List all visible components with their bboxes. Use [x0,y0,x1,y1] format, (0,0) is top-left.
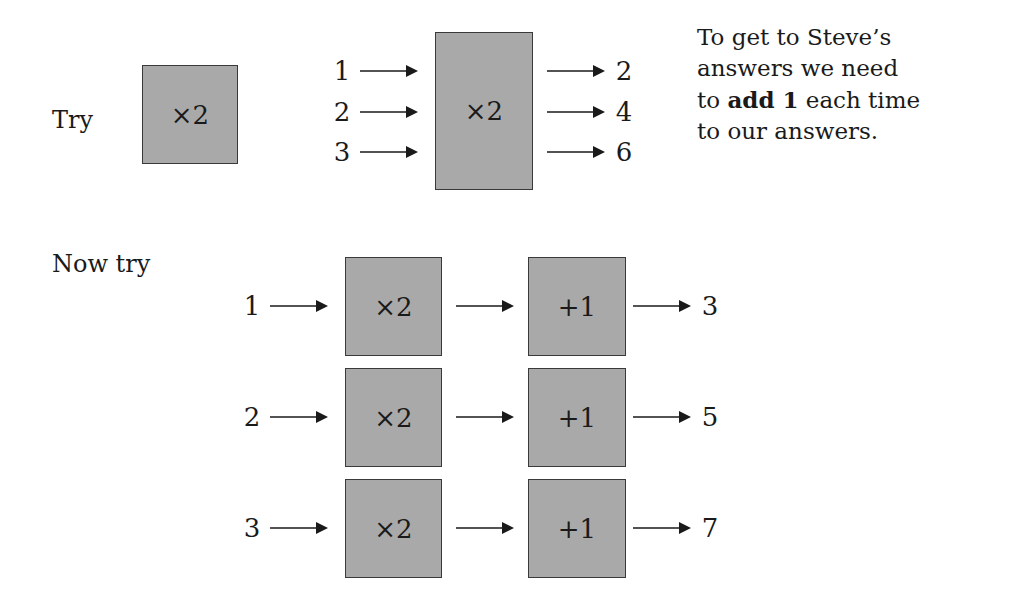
operation-label: ×2 [171,100,209,130]
row-3-times-2-box: ×2 [345,479,442,578]
arrow-right-icon [456,521,516,535]
machine-input-1: 1 [330,56,354,86]
row-3-plus-1-box: +1 [528,479,626,578]
row-1-input: 1 [240,291,264,321]
explanation-emphasis: add 1 [727,86,798,113]
machine-input-3: 3 [330,137,354,167]
explanation-line-3-post: each time [798,87,920,113]
row-2-times-2-box: ×2 [345,368,442,467]
operation-label: ×2 [374,292,412,322]
arrow-right-icon [270,521,330,535]
arrow-right-icon [456,299,516,313]
explanation-text: To get to Steve’s answers we need to add… [697,22,997,147]
machine-box-times-2: ×2 [435,32,533,190]
explanation-line-4: to our answers. [697,116,997,147]
explanation-line-1: To get to Steve’s [697,22,997,53]
arrow-right-icon [633,299,693,313]
row-2-input: 2 [240,402,264,432]
row-3-input: 3 [240,513,264,543]
arrow-right-icon [633,410,693,424]
operation-label: ×2 [374,514,412,544]
arrow-right-icon [270,299,330,313]
row-1-plus-1-box: +1 [528,257,626,356]
arrow-right-icon [360,145,420,159]
arrow-right-icon [547,105,607,119]
operation-label: +1 [558,403,596,433]
operation-label: +1 [558,514,596,544]
arrow-right-icon [360,105,420,119]
machine-output-2: 4 [612,97,636,127]
row-1-times-2-box: ×2 [345,257,442,356]
row-3-output: 7 [698,513,722,543]
arrow-right-icon [360,64,420,78]
row-2-output: 5 [698,402,722,432]
now-try-label: Now try [52,250,150,278]
arrow-right-icon [456,410,516,424]
operation-label: ×2 [465,96,503,126]
machine-output-1: 2 [612,56,636,86]
arrow-right-icon [547,64,607,78]
try-label: Try [52,106,93,134]
arrow-right-icon [633,521,693,535]
explanation-line-2: answers we need [697,53,997,84]
explanation-line-3-pre: to [697,87,727,113]
arrow-right-icon [270,410,330,424]
function-box-times-2: ×2 [142,65,238,164]
operation-label: ×2 [374,403,412,433]
machine-input-2: 2 [330,97,354,127]
operation-label: +1 [558,292,596,322]
arrow-right-icon [547,145,607,159]
row-1-output: 3 [698,291,722,321]
explanation-line-3: to add 1 each time [697,84,997,116]
machine-output-3: 6 [612,137,636,167]
row-2-plus-1-box: +1 [528,368,626,467]
